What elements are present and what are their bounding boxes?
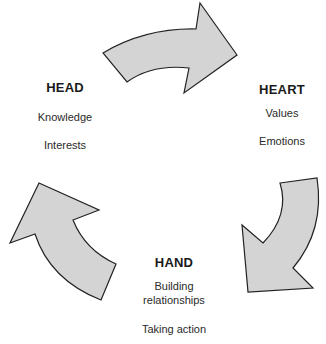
node-head: HEAD Knowledge Interests: [38, 80, 92, 152]
node-head-item: Knowledge: [38, 110, 92, 124]
arrow-heart-to-hand-icon: [242, 178, 319, 292]
node-hand-title: HAND: [142, 255, 206, 270]
node-hand: HAND Building relationships Taking actio…: [142, 255, 206, 336]
node-heart-item: Values: [259, 106, 305, 120]
node-hand-item: Taking action: [142, 322, 206, 336]
node-hand-item-line: Building: [142, 279, 206, 293]
node-heart-title: HEART: [259, 82, 305, 97]
node-heart-item: Emotions: [259, 134, 305, 148]
node-heart: HEART Values Emotions: [259, 82, 305, 148]
arrow-hand-to-head-icon: [10, 183, 116, 300]
arrow-head-to-heart-icon: [103, 3, 237, 93]
node-head-item: Interests: [38, 138, 92, 152]
node-head-title: HEAD: [38, 80, 92, 95]
node-hand-item-line: relationships: [142, 293, 206, 307]
